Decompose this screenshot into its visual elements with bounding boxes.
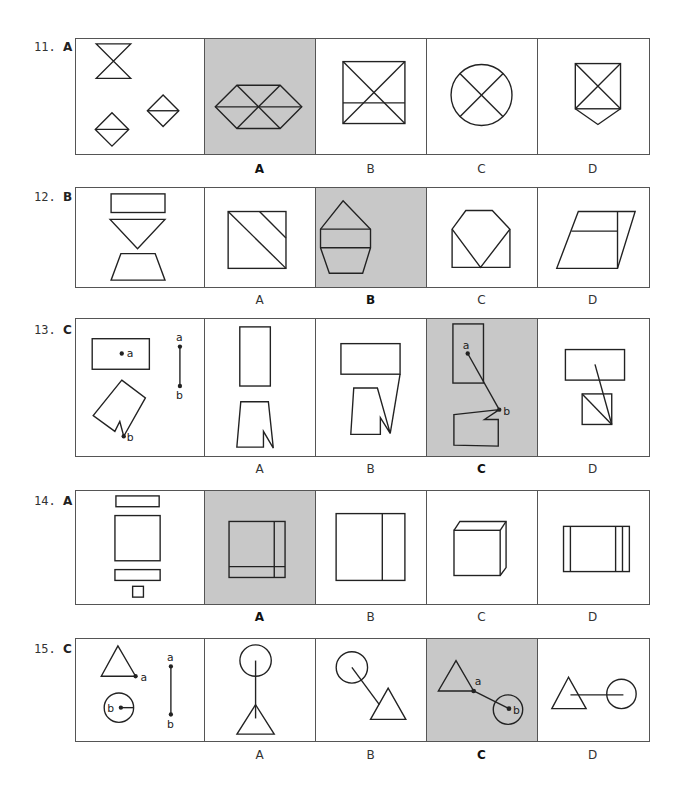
svg-text:b: b: [176, 389, 183, 402]
hexagon-six-triangles-icon: [205, 39, 315, 154]
question-number: 11.: [34, 40, 56, 54]
option-label-a: A: [204, 610, 315, 624]
option-label-c: C: [426, 462, 537, 476]
hourglass-and-diamonds-icon: [76, 39, 204, 154]
svg-text:a: a: [176, 331, 183, 344]
question-11-prompt-figure: [76, 39, 205, 154]
question-14-option-d[interactable]: [538, 491, 649, 604]
circle-triangle-diagonal-icon: [316, 639, 426, 741]
option-label-d: D: [537, 462, 648, 476]
triangle-circle-segment-icon: a b a b: [76, 639, 204, 741]
question-15-option-d[interactable]: [538, 639, 649, 741]
option-label-d: D: [537, 293, 648, 307]
question-number: 14.: [34, 494, 56, 508]
question-14-option-a[interactable]: [205, 491, 316, 604]
question-11-panels: [75, 38, 650, 155]
question-14-panels: [75, 490, 650, 605]
option-label-c: C: [426, 748, 537, 762]
circle-with-x-icon: [427, 39, 537, 154]
question-number: 15.: [34, 642, 56, 656]
question-13-panels: a a b b a b: [75, 318, 650, 457]
square-with-strips-icon: [205, 491, 315, 604]
question-12-prompt-figure: [76, 188, 205, 287]
question-14-option-b[interactable]: [316, 491, 427, 604]
rectangle-three-strips-icon: [538, 491, 649, 604]
question-14-prompt-figure: [76, 491, 205, 604]
parallelogram-divided-icon: [538, 188, 649, 287]
question-12-option-c[interactable]: [427, 188, 538, 287]
stacked-rectangles-icon: [76, 491, 204, 604]
question-12-option-a[interactable]: [205, 188, 316, 287]
question-number: 13.: [34, 323, 56, 337]
option-label-b: B: [315, 748, 426, 762]
svg-text:b: b: [107, 702, 114, 715]
svg-text:a: a: [463, 339, 470, 352]
svg-text:a: a: [475, 675, 482, 688]
question-15-option-a[interactable]: [205, 639, 316, 741]
option-label-a: A: [204, 748, 315, 762]
question-12-header: 12. B: [34, 190, 72, 204]
svg-text:a: a: [140, 671, 147, 684]
question-13-option-b[interactable]: [316, 319, 427, 456]
svg-text:b: b: [513, 704, 520, 717]
option-label-a: A: [204, 293, 315, 307]
question-14-option-c[interactable]: [427, 491, 538, 604]
question-12-option-d[interactable]: [538, 188, 649, 287]
svg-text:a: a: [127, 347, 134, 360]
svg-text:b: b: [167, 718, 174, 731]
triangle-circle-horizontal-icon: [538, 639, 649, 741]
rectangle-polygon-segment-ab-icon: a b: [427, 319, 537, 456]
question-11-option-a[interactable]: [205, 39, 316, 154]
pentagon-house-shape-icon: [316, 188, 426, 287]
option-label-d: D: [537, 162, 648, 176]
option-label-a: A: [204, 162, 315, 176]
question-14-header: 14. A: [34, 494, 72, 508]
rectangle-polygon-segment-icon: a a b b: [76, 319, 204, 456]
svg-text:b: b: [127, 431, 134, 444]
rectangle-vertical-divider-icon: [316, 491, 426, 604]
question-15-panels: a b a b a b: [75, 638, 650, 742]
answer-key: C: [63, 323, 72, 337]
rectangle-square-diagonal-icon: [538, 319, 649, 456]
answer-key: A: [63, 494, 72, 508]
answer-key: A: [63, 40, 72, 54]
question-11-option-c[interactable]: [427, 39, 538, 154]
answer-key: B: [63, 190, 72, 204]
question-15-header: 15. C: [34, 642, 72, 656]
question-15-prompt-figure: a b a b: [76, 639, 205, 741]
option-label-c: C: [426, 610, 537, 624]
question-15-option-b[interactable]: [316, 639, 427, 741]
svg-text:b: b: [503, 405, 510, 418]
question-13-header: 13. C: [34, 323, 72, 337]
rectangle-triangle-trapezoid-icon: [76, 188, 204, 287]
question-12-option-b[interactable]: [316, 188, 427, 287]
question-13-prompt-figure: a a b b: [76, 319, 205, 456]
question-11-option-b[interactable]: [316, 39, 427, 154]
rectangle-above-notched-polygon-icon: [205, 319, 315, 456]
option-label-d: D: [537, 748, 648, 762]
svg-text:a: a: [167, 651, 174, 664]
cube-icon: [427, 491, 537, 604]
shield-square-x-icon: [538, 39, 649, 154]
option-label-b: B: [315, 610, 426, 624]
question-number: 12.: [34, 190, 56, 204]
option-label-b: B: [315, 162, 426, 176]
option-label-c: C: [426, 293, 537, 307]
option-label-a: A: [204, 462, 315, 476]
question-15-option-c[interactable]: a b: [427, 639, 538, 741]
answer-key: C: [63, 642, 72, 656]
question-11-option-d[interactable]: [538, 39, 649, 154]
option-label-b: B: [315, 462, 426, 476]
option-label-b: B: [315, 293, 426, 307]
triangle-circle-ab-icon: a b: [427, 639, 537, 741]
circle-over-triangle-icon: [205, 639, 315, 741]
rectangle-polygon-connected-icon: [316, 319, 426, 456]
question-11-header: 11. A: [34, 40, 72, 54]
question-13-option-c[interactable]: a b: [427, 319, 538, 456]
square-with-x-and-line-icon: [316, 39, 426, 154]
question-13-option-a[interactable]: [205, 319, 316, 456]
hexagon-envelope-icon: [427, 188, 537, 287]
question-12-panels: [75, 187, 650, 288]
question-13-option-d[interactable]: [538, 319, 649, 456]
option-label-c: C: [426, 162, 537, 176]
